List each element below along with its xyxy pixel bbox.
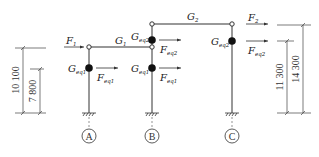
fixed-support-c [225,113,239,116]
mass-c-upper [228,37,236,45]
mass-b-lower [148,64,156,72]
label-feq1-a: Feq1 [96,72,114,85]
label-geq2-c: Geq2 [211,36,230,49]
dimension-11300: 11 300 [274,63,285,90]
axis-label-b: B [149,131,156,142]
label-geq2-b: Geq2 [131,31,150,44]
hinge-b-top [150,22,154,26]
label-f1: F1 [65,35,76,47]
frame-diagram: A B C F1 F2 Feq1 Feq1 Feq2 Feq2 G1 G2 Ge… [0,0,319,157]
axis-label-a: A [85,131,93,142]
label-g1: G1 [115,35,127,47]
fixed-support-b [145,113,159,116]
fixed-support-a [82,113,96,116]
mass-b-upper [148,36,156,44]
dimension-10100: 10 100 [10,66,21,94]
hinge-c-top [230,22,234,26]
axis-label-c: C [229,131,236,142]
dimension-14300: 14 300 [290,55,301,83]
dimension-7800: 7 800 [27,80,38,103]
label-g2: G2 [187,11,199,23]
label-geq1-a: Geq1 [68,63,86,76]
mass-a-lower [85,64,93,72]
label-geq1-b: Geq1 [131,63,149,76]
label-feq2-b: Feq2 [159,44,178,57]
hinge-b-low [150,45,154,49]
label-feq2-c: Feq2 [247,45,266,58]
label-f2: F2 [247,12,259,24]
hinge-a-top [87,45,91,49]
label-feq1-b: Feq1 [159,72,177,85]
